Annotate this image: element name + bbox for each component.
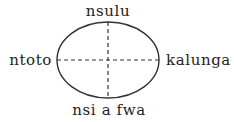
label-right: kalunga bbox=[166, 51, 231, 69]
label-top: nsulu bbox=[86, 2, 130, 20]
label-bottom: nsi a fwa bbox=[72, 101, 145, 119]
label-left: ntoto bbox=[9, 51, 52, 69]
cosmogram-diagram: nsulu ntoto kalunga nsi a fwa bbox=[0, 0, 234, 122]
